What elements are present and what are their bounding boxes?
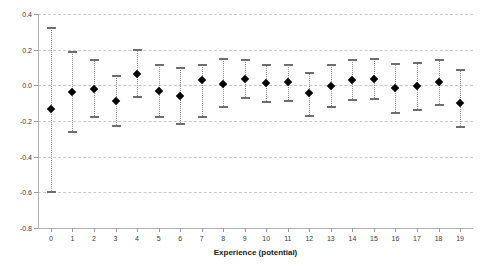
- x-tick-mark: [331, 228, 332, 232]
- error-bar-cap-upper: [198, 64, 207, 66]
- error-bar-cap-upper: [112, 75, 121, 77]
- error-bar-cap-lower: [133, 96, 142, 98]
- data-point-marker: [197, 76, 205, 84]
- error-bar-cap-upper: [327, 64, 336, 66]
- error-bar-cap-upper: [348, 59, 357, 61]
- error-bar-cap-lower: [305, 115, 314, 117]
- gridline: [38, 14, 473, 15]
- x-tick-label: 12: [305, 235, 313, 242]
- y-tick-mark: [34, 50, 38, 51]
- x-tick-mark: [51, 228, 52, 232]
- error-bar-cap-lower: [370, 98, 379, 100]
- y-axis-line: [38, 14, 39, 228]
- plot-area: [38, 14, 473, 228]
- y-tick-mark: [34, 228, 38, 229]
- x-tick-mark: [245, 228, 246, 232]
- x-tick-mark: [202, 228, 203, 232]
- x-axis-title: Experience (potential): [38, 248, 473, 257]
- x-tick-mark: [137, 228, 138, 232]
- error-bar-cap-lower: [198, 116, 207, 118]
- error-bar-cap-upper: [413, 62, 422, 64]
- error-bar-cap-lower: [284, 100, 293, 102]
- error-bar-cap-lower: [456, 126, 465, 128]
- error-bar-cap-lower: [68, 131, 77, 133]
- x-tick-mark: [309, 228, 310, 232]
- x-tick-label: 11: [284, 235, 291, 242]
- data-point-marker: [413, 82, 421, 90]
- x-tick-label: 14: [348, 235, 356, 242]
- error-bar-cap-lower: [413, 109, 422, 111]
- error-bar-cap-lower: [155, 116, 164, 118]
- data-point-marker: [370, 74, 378, 82]
- error-bar-cap-upper: [155, 64, 164, 66]
- y-tick-label: 0.0: [4, 82, 32, 89]
- y-tick-label: -0.4: [4, 153, 32, 160]
- error-bar-cap-upper: [241, 59, 250, 61]
- error-bar-cap-upper: [456, 69, 465, 71]
- x-tick-label: 7: [200, 235, 204, 242]
- y-tick-mark: [34, 192, 38, 193]
- error-bar-cap-lower: [112, 125, 121, 127]
- error-bar-cap-lower: [241, 97, 250, 99]
- x-tick-label: 1: [71, 235, 75, 242]
- gridline: [38, 85, 473, 86]
- y-tick-mark: [34, 157, 38, 158]
- x-tick-mark: [439, 228, 440, 232]
- data-point-marker: [47, 105, 55, 113]
- error-bar-cap-lower: [262, 101, 271, 103]
- data-point-marker: [111, 97, 119, 105]
- error-bar-cap-upper: [219, 58, 228, 60]
- gridline: [38, 157, 473, 158]
- x-tick-label: 19: [456, 235, 464, 242]
- error-bar-cap-lower: [47, 191, 56, 193]
- gridline: [38, 121, 473, 122]
- x-tick-mark: [374, 228, 375, 232]
- x-tick-label: 17: [413, 235, 421, 242]
- x-tick-label: 15: [370, 235, 378, 242]
- error-bar-cap-lower: [348, 99, 357, 101]
- x-tick-label: 16: [392, 235, 400, 242]
- x-tick-mark: [352, 228, 353, 232]
- error-bar-cap-lower: [327, 106, 336, 108]
- error-bar-cap-upper: [47, 27, 56, 29]
- x-tick-label: 3: [114, 235, 118, 242]
- data-point-marker: [456, 99, 464, 107]
- error-bar-whisker: [202, 64, 203, 118]
- error-bar-cap-upper: [262, 64, 271, 66]
- y-tick-label: 0.2: [4, 46, 32, 53]
- error-bar-cap-upper: [176, 67, 185, 69]
- gridline: [38, 192, 473, 193]
- error-bar-cap-upper: [68, 51, 77, 53]
- error-bar-cap-lower: [90, 116, 99, 118]
- x-tick-mark: [266, 228, 267, 232]
- x-tick-mark: [223, 228, 224, 232]
- x-tick-label: 2: [92, 235, 96, 242]
- x-tick-mark: [72, 228, 73, 232]
- x-tick-mark: [395, 228, 396, 232]
- gridline: [38, 50, 473, 51]
- x-tick-label: 18: [435, 235, 443, 242]
- data-point-marker: [154, 87, 162, 95]
- y-tick-label: 0.4: [4, 11, 32, 18]
- data-point-marker: [219, 80, 227, 88]
- y-tick-label: -0.2: [4, 118, 32, 125]
- y-tick-mark: [34, 121, 38, 122]
- x-tick-mark: [417, 228, 418, 232]
- data-point-marker: [240, 75, 248, 83]
- x-tick-label: 9: [243, 235, 247, 242]
- x-tick-label: 5: [157, 235, 161, 242]
- error-bar-cap-upper: [305, 72, 314, 74]
- y-tick-mark: [34, 85, 38, 86]
- y-tick-mark: [34, 14, 38, 15]
- error-bar-cap-upper: [284, 64, 293, 66]
- error-bar-cap-upper: [435, 59, 444, 61]
- data-point-marker: [327, 82, 335, 90]
- x-tick-mark: [116, 228, 117, 232]
- error-bar-chart: 0.40.20.0-0.2-0.4-0.6-0.8 01234567891011…: [0, 0, 481, 268]
- y-tick-label: -0.8: [4, 225, 32, 232]
- x-tick-label: 8: [221, 235, 225, 242]
- x-tick-mark: [180, 228, 181, 232]
- data-point-marker: [348, 76, 356, 84]
- error-bar-cap-lower: [219, 106, 228, 108]
- x-tick-mark: [460, 228, 461, 232]
